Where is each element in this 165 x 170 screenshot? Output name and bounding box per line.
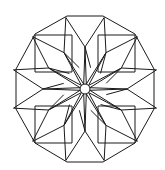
star-line — [66, 18, 85, 47]
star-line — [14, 68, 49, 70]
star-line — [85, 94, 86, 131]
star-line — [33, 125, 64, 141]
geometric-rosette-diagram — [0, 0, 165, 170]
star-line — [127, 89, 156, 108]
star-line — [14, 108, 49, 110]
star-line — [14, 70, 43, 89]
star-line — [49, 68, 70, 73]
center-circle — [80, 84, 90, 94]
star-line — [121, 108, 156, 110]
star-line — [66, 131, 85, 160]
star-line — [121, 68, 156, 70]
star-line — [127, 70, 156, 89]
star-line — [33, 37, 64, 53]
star-line — [85, 18, 104, 47]
star-line — [101, 53, 106, 74]
star-line — [106, 37, 137, 53]
star-line — [101, 105, 122, 110]
star-line — [84, 47, 85, 84]
star-line — [64, 105, 69, 126]
star-line — [85, 131, 104, 160]
outer-dodecagon — [16, 16, 154, 162]
star-line — [106, 125, 137, 141]
star-line — [43, 89, 80, 90]
rosette-svg — [0, 0, 165, 170]
star-line — [14, 89, 43, 108]
star-line — [90, 88, 127, 89]
